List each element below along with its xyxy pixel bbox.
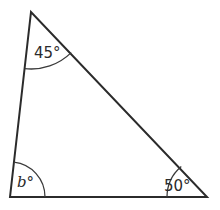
triangle-diagram: 45° b° 50° (0, 0, 220, 210)
angle-label-bottom-right: 50° (164, 177, 191, 195)
angle-label-top: 45° (34, 44, 61, 62)
angle-label-bottom-left: b° (17, 173, 34, 191)
